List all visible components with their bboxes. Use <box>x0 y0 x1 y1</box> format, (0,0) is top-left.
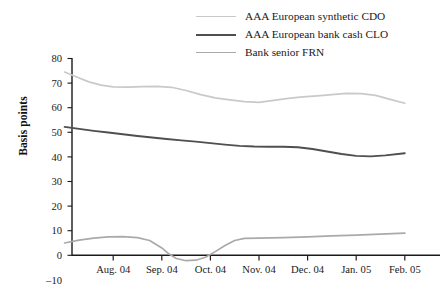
legend-label-frn: Bank senior FRN <box>245 46 324 59</box>
legend-swatch-clo <box>196 34 236 36</box>
x-tick-label: Dec. 04 <box>291 264 325 275</box>
x-axis-ticks: Aug. 04Sep. 04Oct. 04Nov. 04Dec. 04Jan. … <box>96 255 421 275</box>
legend-item-cdo: AAA European synthetic CDO <box>196 10 388 23</box>
y-tick-label: 60 <box>51 102 62 113</box>
y-tick-label: –10 <box>45 275 62 286</box>
legend-swatch-cdo <box>196 16 236 17</box>
y-tick-label: 40 <box>51 152 62 163</box>
x-tick-label: Nov. 04 <box>242 264 276 275</box>
y-tick-label: 30 <box>51 176 62 187</box>
y-tick-label: 80 <box>51 53 62 64</box>
series-lines <box>65 72 405 261</box>
x-tick-label: Jan. 05 <box>341 264 371 275</box>
x-tick-label: Aug. 04 <box>96 264 131 275</box>
y-tick-label: 50 <box>51 127 62 138</box>
legend-item-frn: Bank senior FRN <box>196 46 388 59</box>
y-axis-ticks: 80706050403020100–10 <box>45 53 72 285</box>
y-tick-label: 20 <box>51 201 62 212</box>
legend-item-clo: AAA European bank cash CLO <box>196 28 388 41</box>
y-tick-label: 70 <box>51 78 62 89</box>
series-line-0 <box>65 72 405 103</box>
series-line-2 <box>65 233 405 261</box>
x-tick-label: Feb. 05 <box>389 264 421 275</box>
legend-swatch-frn <box>196 52 236 53</box>
chart-legend: AAA European synthetic CDO AAA European … <box>196 10 388 59</box>
x-tick-label: Oct. 04 <box>195 264 227 275</box>
legend-label-cdo: AAA European synthetic CDO <box>245 10 385 23</box>
legend-label-clo: AAA European bank cash CLO <box>245 28 388 41</box>
series-line-1 <box>65 127 405 157</box>
chart-container: Basis points 80706050403020100–10 Aug. 0… <box>0 0 448 290</box>
y-tick-label: 10 <box>51 225 62 236</box>
x-tick-label: Sep. 04 <box>146 264 178 275</box>
y-tick-label: 0 <box>57 250 62 261</box>
